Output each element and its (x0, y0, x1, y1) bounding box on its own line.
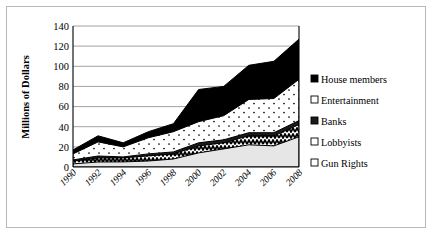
y-axis-title: Millions of Dollars (20, 55, 31, 138)
chart-frame: 140 120 100 80 60 40 20 0 Millions of Do… (6, 6, 426, 228)
y-tick-label: 100 (53, 61, 69, 72)
x-tick-label: 2004 (232, 166, 253, 187)
y-tick-label: 60 (59, 101, 70, 112)
x-tick-label: 1998 (157, 166, 178, 187)
x-tick-label: 1996 (132, 166, 153, 187)
y-tick-label: 20 (59, 142, 70, 153)
x-tick-label: 1992 (82, 166, 103, 187)
chart-legend: House members Entertainment Banks Lobbyi… (311, 74, 387, 169)
legend-item-banks[interactable]: Banks (311, 116, 347, 127)
legend-item-house-members[interactable]: House members (311, 74, 387, 85)
filled-square-icon (311, 75, 318, 82)
legend-label: Gun Rights (321, 158, 368, 169)
legend-item-lobbyists[interactable]: Lobbyists (311, 137, 361, 148)
legend-label: Banks (321, 116, 347, 127)
x-tick-label: 2006 (257, 166, 278, 187)
x-tick-label: 2002 (207, 166, 228, 187)
y-axis-ticks: 140 120 100 80 60 40 20 0 (53, 21, 69, 173)
open-square-icon (311, 159, 318, 166)
open-square-icon (311, 96, 318, 103)
y-tick-label: 120 (53, 41, 69, 52)
x-axis-ticks: 1990 1992 1994 1996 1998 2000 2002 2004 … (57, 166, 304, 187)
legend-item-gun-rights[interactable]: Gun Rights (311, 158, 368, 169)
y-tick-label: 140 (53, 21, 69, 32)
legend-item-entertainment[interactable]: Entertainment (311, 95, 379, 106)
y-tick-label: 80 (59, 81, 70, 92)
x-tick-label: 2008 (283, 166, 304, 187)
legend-label: Lobbyists (321, 137, 361, 148)
legend-label: House members (321, 74, 387, 85)
stacked-area-chart: 140 120 100 80 60 40 20 0 Millions of Do… (7, 7, 427, 229)
x-tick-label: 1994 (107, 166, 128, 187)
legend-label: Entertainment (321, 95, 379, 106)
x-tick-label: 1990 (57, 166, 78, 187)
y-tick-label: 40 (59, 122, 70, 133)
filled-square-icon (311, 117, 318, 124)
open-square-icon (311, 138, 318, 145)
x-tick-label: 2000 (182, 166, 203, 187)
